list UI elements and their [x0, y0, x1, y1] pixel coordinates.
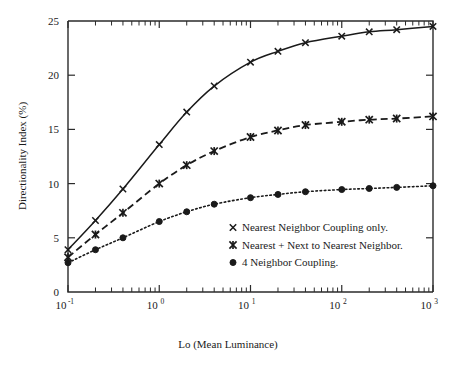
- x-axis-title: Lo (Mean Luminance): [178, 338, 278, 351]
- marker-filled-circle: [302, 189, 308, 195]
- legend-label: Nearest + Next to Nearest Neighbor.: [242, 239, 403, 251]
- legend-label: 4 Neighbor Coupling.: [242, 256, 338, 268]
- x-tick-label-exponent: 2: [343, 297, 347, 306]
- y-tick-label: 15: [48, 123, 60, 135]
- y-tick-label: 0: [54, 286, 60, 298]
- marker-filled-circle: [394, 184, 400, 190]
- x-tick-label-mantissa: 10: [421, 299, 433, 311]
- x-tick-label-exponent: 3: [434, 297, 438, 306]
- y-axis-title: Directionality Index (%): [16, 102, 29, 210]
- x-tick-label-mantissa: 10: [147, 299, 159, 311]
- marker-filled-circle: [230, 260, 236, 266]
- legend-entry-1: Nearest + Next to Nearest Neighbor.: [229, 239, 403, 251]
- marker-filled-circle: [65, 260, 71, 266]
- marker-filled-circle: [248, 195, 254, 201]
- legend-label: Nearest Neighbor Coupling only.: [242, 221, 388, 233]
- directionality-index-line-chart: 10-1100101102103 0510152025 Nearest Neig…: [0, 0, 457, 375]
- y-tick-label: 20: [48, 69, 60, 81]
- x-tick-label-exponent: -1: [68, 297, 74, 306]
- x-tick-label-mantissa: 10: [329, 299, 341, 311]
- y-tick-label: 5: [54, 232, 60, 244]
- marker-filled-circle: [120, 235, 126, 241]
- x-tick-label-mantissa: 10: [56, 299, 68, 311]
- legend-entry-0: Nearest Neighbor Coupling only.: [230, 221, 388, 233]
- marker-filled-circle: [184, 209, 190, 215]
- y-tick-label: 10: [48, 178, 60, 190]
- marker-filled-circle: [366, 185, 372, 191]
- x-tick-label-mantissa: 10: [238, 299, 250, 311]
- marker-filled-circle: [211, 201, 217, 207]
- x-tick-label-exponent: 0: [160, 297, 164, 306]
- legend-entry-2: 4 Neighbor Coupling.: [230, 256, 338, 268]
- marker-filled-circle: [430, 183, 436, 189]
- marker-filled-circle: [156, 219, 162, 225]
- marker-filled-circle: [92, 247, 98, 253]
- y-tick-label: 25: [48, 15, 60, 27]
- marker-filled-circle: [275, 191, 281, 197]
- x-tick-label-exponent: 1: [252, 297, 256, 306]
- chart-figure: 10-1100101102103 0510152025 Nearest Neig…: [0, 0, 457, 375]
- marker-filled-circle: [339, 187, 345, 193]
